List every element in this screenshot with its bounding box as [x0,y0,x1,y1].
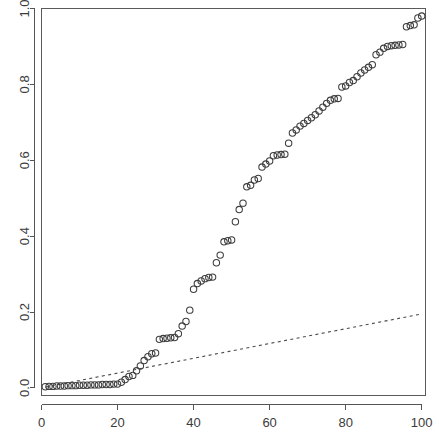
x-tick-label: 60 [262,415,276,430]
y-tick-label: 0.4 [17,227,32,245]
x-tick-label: 40 [186,415,200,430]
x-tick-label: 100 [411,415,433,430]
plot-background [0,0,439,440]
y-tick-label: 0.8 [17,75,32,93]
x-tick-label: 20 [110,415,124,430]
scatter-plot: 020406080100 0.00.20.40.60.81.0 [0,0,439,440]
y-tick-label: 0.0 [17,379,32,397]
x-tick-label: 80 [338,415,352,430]
y-tick-label: 0.6 [17,151,32,169]
x-tick-label: 0 [38,415,45,430]
y-tick-label: 1.0 [17,0,32,18]
chart-container: 020406080100 0.00.20.40.60.81.0 [0,0,439,440]
y-tick-label: 0.2 [17,303,32,321]
